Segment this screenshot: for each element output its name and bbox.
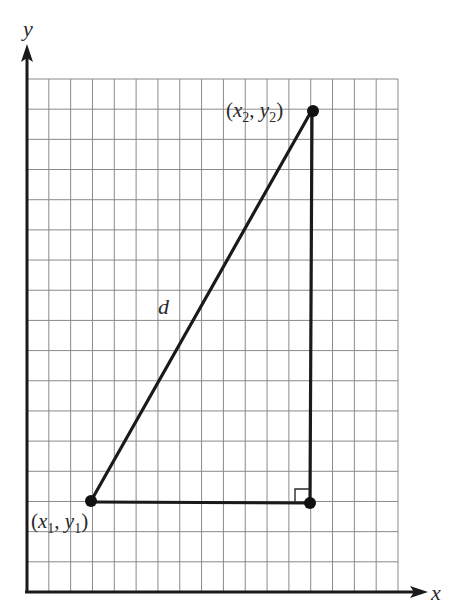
hypotenuse-label: d	[158, 294, 170, 319]
vertical-leg	[310, 110, 312, 503]
distance-diagram: y x (x1, y1) (x2, y2) d	[0, 0, 453, 615]
point-1	[85, 495, 97, 507]
point-1-label: (x1, y1)	[31, 509, 88, 536]
point-2-label: (x2, y2)	[226, 98, 283, 125]
point-2	[307, 105, 319, 117]
x-axis-label: x	[430, 580, 441, 605]
horizontal-leg	[91, 502, 310, 503]
corner-point	[304, 497, 316, 509]
y-axis-label: y	[21, 16, 33, 41]
